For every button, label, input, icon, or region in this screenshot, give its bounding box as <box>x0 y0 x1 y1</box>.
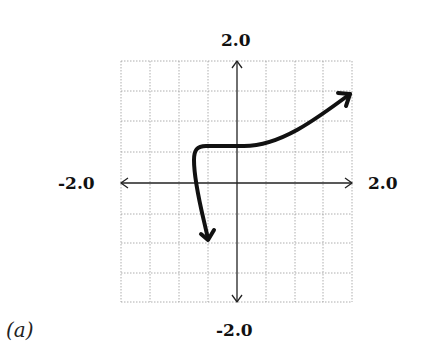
y-min-label: -2.0 <box>216 320 253 340</box>
figure-caption: (a) <box>6 318 34 342</box>
function-curve <box>194 93 350 240</box>
y-axis <box>232 61 242 302</box>
x-min-label: -2.0 <box>58 173 95 193</box>
x-max-label: 2.0 <box>368 173 398 193</box>
y-max-label: 2.0 <box>221 30 251 50</box>
